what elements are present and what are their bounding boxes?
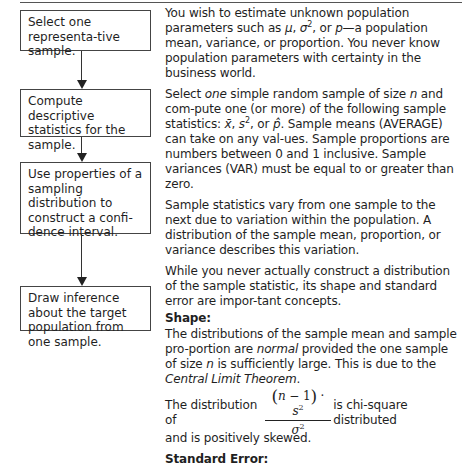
- flow-step-label: Select one representa-tive sample.: [28, 15, 120, 58]
- explanation-column: You wish to estimate unknown population …: [165, 6, 462, 467]
- flow-step-draw-inference: Draw inference about the target populati…: [20, 286, 151, 331]
- arrow-down-icon: [77, 277, 87, 286]
- arrow-down-icon: [77, 80, 87, 89]
- flow-connector: [81, 137, 82, 154]
- flow-step-select-sample: Select one representa-tive sample.: [20, 10, 151, 51]
- arrow-down-icon: [77, 153, 87, 162]
- flow-step-confidence-interval: Use properties of a sampling distributio…: [20, 162, 151, 234]
- flow-connector: [81, 51, 82, 81]
- flow-step-label: Use properties of a sampling distributio…: [28, 167, 142, 239]
- paragraph-shape-standard-error: While you never actually construct a dis…: [165, 264, 462, 309]
- flow-step-label: Draw inference about the target populati…: [28, 291, 126, 349]
- paragraph-normal-distribution: The distributions of the sample mean and…: [165, 327, 462, 387]
- heading-standard-error: Standard Error:: [165, 452, 462, 467]
- flow-step-label: Compute descriptive statistics for the s…: [28, 94, 125, 152]
- paragraph-variation: Sample statistics vary from one sample t…: [165, 198, 462, 258]
- flow-connector: [81, 234, 82, 278]
- top-rule: [20, 2, 462, 3]
- paragraph-parameters: You wish to estimate unknown population …: [165, 6, 462, 81]
- flow-step-compute-statistics: Compute descriptive statistics for the s…: [20, 89, 151, 137]
- heading-shape: Shape:: [165, 311, 462, 326]
- paragraph-sample-statistics: Select one simple random sample of size …: [165, 87, 462, 192]
- paragraph-chi-square: The distribution of (n − 1) · s2 σ2 is c…: [165, 393, 462, 433]
